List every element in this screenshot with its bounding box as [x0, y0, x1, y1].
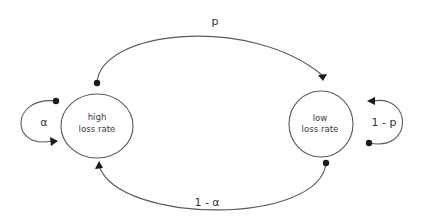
- arrowhead-icon: [50, 137, 58, 146]
- edge-label-1-minus-alpha: 1 - α: [194, 196, 219, 209]
- edge-label-1-minus-p: 1 - p: [372, 116, 397, 129]
- state-low-label-line2: loss rate: [302, 124, 339, 134]
- arrowhead-icon: [318, 74, 327, 81]
- markov-chain-diagram: high loss rate low loss rate p 1 - α α 1…: [0, 0, 423, 224]
- edge-start-dot: [53, 98, 59, 104]
- transition-high-to-low: p: [94, 15, 327, 86]
- edge-label-alpha: α: [40, 116, 47, 129]
- arrowhead-icon: [367, 97, 375, 105]
- state-high-loss-rate: high loss rate: [61, 94, 133, 158]
- state-low-label-line1: low: [313, 113, 328, 123]
- state-low-loss-rate: low loss rate: [289, 91, 353, 157]
- state-high-label-line2: loss rate: [79, 124, 116, 134]
- transition-high-self-loop: α: [21, 98, 59, 146]
- edge-high-to-low: [97, 36, 322, 83]
- edge-start-dot: [323, 160, 329, 166]
- transition-low-self-loop: 1 - p: [366, 97, 403, 146]
- transition-low-to-high: 1 - α: [95, 160, 329, 210]
- edge-high-self: [21, 101, 56, 142]
- edge-start-dot: [366, 140, 372, 146]
- state-high-label-line1: high: [88, 112, 107, 122]
- arrowhead-icon: [95, 161, 103, 169]
- edge-start-dot: [94, 80, 100, 86]
- edge-label-p: p: [212, 15, 219, 28]
